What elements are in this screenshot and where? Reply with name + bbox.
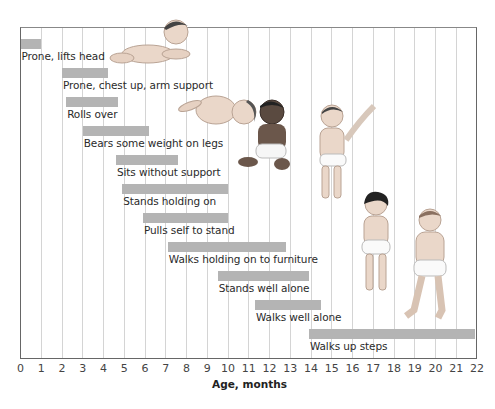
x-tick-label: 16: [346, 362, 360, 375]
grid-line: [41, 28, 42, 358]
x-tick-label: 2: [59, 362, 66, 375]
milestone-bar: [83, 126, 149, 136]
x-tick-label: 10: [221, 362, 235, 375]
milestone-label: Stands well alone: [219, 282, 310, 294]
x-tick-label: 15: [325, 362, 339, 375]
x-tick-label: 1: [38, 362, 45, 375]
x-tick-label: 6: [142, 362, 149, 375]
baby-standing-with-support-icon: [316, 100, 376, 204]
baby-sitting-icon: [238, 98, 300, 176]
x-tick-label: 22: [470, 362, 484, 375]
x-tick-label: 13: [283, 362, 297, 375]
x-tick-label: 7: [162, 362, 169, 375]
milestone-label: Walks holding on to furniture: [169, 253, 318, 265]
milestone-bar: [218, 271, 309, 281]
milestone-bar: [21, 39, 42, 49]
x-tick-label: 20: [429, 362, 443, 375]
x-tick-label: 0: [17, 362, 24, 375]
milestone-bar: [168, 242, 286, 252]
x-tick-label: 8: [183, 362, 190, 375]
x-tick-label: 18: [387, 362, 401, 375]
milestone-bar: [143, 213, 228, 223]
milestone-bar: [66, 97, 118, 107]
milestone-bar: [62, 68, 108, 78]
milestone-label: Sits without support: [117, 166, 221, 178]
x-tick-label: 19: [408, 362, 422, 375]
grid-line: [456, 28, 457, 358]
milestone-label: Pulls self to stand: [144, 224, 235, 236]
grid-line: [248, 28, 249, 358]
x-tick-label: 12: [263, 362, 277, 375]
x-tick-label: 9: [204, 362, 211, 375]
x-tick-label: 5: [121, 362, 128, 375]
x-tick-label: 4: [100, 362, 107, 375]
milestone-bar: [122, 184, 228, 194]
x-tick-label: 11: [242, 362, 256, 375]
milestone-label: Prone, chest up, arm support: [63, 79, 213, 91]
milestone-label: Walks well alone: [256, 311, 341, 323]
milestone-label: Walks up steps: [310, 340, 387, 352]
milestone-bar: [309, 329, 475, 339]
baby-prone-lifting-head-icon: [108, 16, 208, 72]
milestone-label: Bears some weight on legs: [84, 137, 223, 149]
x-axis-label: Age, months: [0, 378, 495, 390]
milestone-label: Prone, lifts head: [22, 50, 105, 62]
baby-walking-icon: [404, 206, 454, 322]
x-tick-label: 17: [366, 362, 380, 375]
baby-standing-alone-icon: [356, 190, 396, 294]
x-tick-label: 21: [449, 362, 463, 375]
x-tick-label: 14: [304, 362, 318, 375]
milestone-label: Stands holding on: [123, 195, 216, 207]
milestone-bar: [255, 300, 321, 310]
x-tick-label: 3: [79, 362, 86, 375]
milestone-label: Rolls over: [67, 108, 117, 120]
milestone-bar: [116, 155, 178, 165]
